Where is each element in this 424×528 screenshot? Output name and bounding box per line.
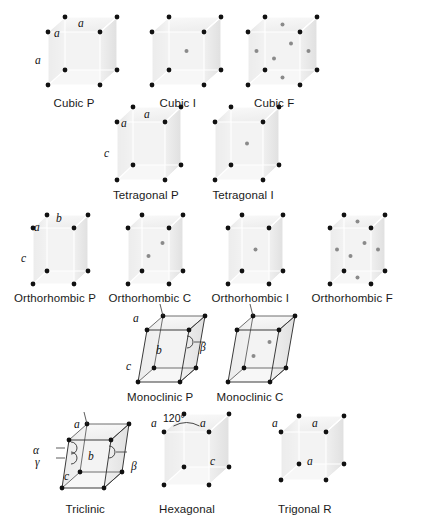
lattice-point-corner-2 (72, 282, 77, 287)
lattice-point-corner-2 (369, 282, 374, 287)
face-front (33, 228, 74, 284)
lattice-cell-cubic-f[interactable] (246, 15, 320, 88)
lattice-point-corner-7 (182, 465, 187, 470)
lattice-point-interior-0 (254, 248, 258, 252)
lattice-point-interior-1 (161, 241, 165, 245)
lattice-point-corner-2 (163, 178, 168, 183)
lattice-point-corner-1 (109, 438, 114, 443)
hexagonal-edge-label-c-vertical: c (210, 455, 215, 467)
triclinic-angle-label-gamma: γ (35, 456, 40, 468)
cubic-p-edge-label-a-top-left: a (54, 27, 60, 39)
lattice-point-corner-5 (293, 314, 298, 319)
lattice-point-corner-1 (261, 120, 266, 125)
cell-caption-tetragonal-p: Tetragonal P (113, 189, 179, 201)
lattice-point-interior-5 (376, 248, 380, 252)
tetragonal-p-edge-label-c-vertical: c (104, 147, 109, 159)
orthorhombic-p-edge-label-a-top-left: a (34, 221, 40, 233)
lattice-cell-orthorhombic-c[interactable] (126, 213, 186, 287)
cell-caption-monoclinic-c: Monoclinic C (217, 391, 284, 403)
lattice-point-corner-1 (207, 430, 212, 435)
lattice-point-corner-5 (203, 314, 208, 319)
lattice-point-corner-6 (219, 68, 224, 73)
lattice-point-corner-2 (298, 83, 303, 88)
lattice-point-corner-6 (86, 269, 91, 274)
lattice-point-corner-2 (207, 483, 212, 488)
lattice-point-interior-5 (307, 49, 311, 53)
tetragonal-p-edge-label-a-top-back: a (144, 108, 150, 120)
lattice-point-interior-3 (281, 76, 285, 80)
lattice-point-corner-3 (246, 83, 251, 88)
lattice-point-corner-1 (202, 30, 207, 35)
lattice-point-corner-5 (115, 15, 120, 20)
lattice-point-corner-5 (227, 412, 232, 417)
hexagonal-edge-label-a-right: a (200, 417, 206, 429)
triclinic-edge-label-b-front: b (88, 450, 94, 462)
lattice-point-corner-4 (297, 414, 302, 419)
trigonal-r-edge-label-a-face: a (307, 455, 313, 467)
lattice-point-interior-0 (349, 254, 353, 258)
lattice-point-corner-5 (219, 15, 224, 20)
lattice-point-corner-0 (279, 430, 284, 435)
lattice-point-interior-0 (147, 254, 151, 258)
lattice-point-corner-7 (63, 68, 68, 73)
lattice-point-corner-4 (263, 15, 268, 20)
lattice-point-corner-7 (342, 269, 347, 274)
face-front (281, 432, 326, 480)
lattice-point-interior-2 (281, 23, 285, 27)
lattice-point-interior-0 (272, 57, 276, 61)
lattice-point-corner-5 (281, 213, 286, 218)
cell-caption-tetragonal-i: Tetragonal I (213, 189, 274, 201)
lattice-point-corner-6 (194, 366, 199, 371)
lattice-point-corner-1 (369, 226, 374, 231)
lattice-point-corner-6 (284, 366, 289, 371)
lattice-point-interior-4 (255, 49, 259, 53)
lattice-point-corner-4 (140, 213, 145, 218)
lattice-point-corner-7 (240, 269, 245, 274)
face-front (164, 432, 209, 485)
lattice-cell-tetragonal-i[interactable] (213, 105, 282, 183)
lattice-point-corner-4 (240, 213, 245, 218)
lattice-point-corner-6 (120, 470, 125, 475)
lattice-point-corner-4 (131, 105, 136, 110)
lattice-point-corner-3 (126, 282, 131, 287)
lattice-point-corner-7 (152, 366, 157, 371)
hexagonal-edge-label-a-left: a (151, 417, 157, 429)
lattice-point-corner-7 (297, 462, 302, 467)
lattice-point-corner-7 (45, 269, 50, 274)
face-front (152, 32, 204, 85)
lattice-point-corner-6 (277, 163, 282, 168)
lattice-point-corner-0 (235, 328, 240, 333)
lattice-point-corner-7 (229, 163, 234, 168)
cell-caption-cubic-p: Cubic P (54, 97, 95, 109)
lattice-point-corner-0 (246, 30, 251, 35)
lattice-point-corner-0 (126, 226, 131, 231)
lattice-point-corner-4 (229, 105, 234, 110)
lattice-point-corner-7 (242, 366, 247, 371)
lattice-cell-orthorhombic-f[interactable] (328, 213, 388, 287)
lattice-point-corner-1 (163, 120, 168, 125)
lattice-point-interior-1 (268, 340, 272, 344)
lattice-point-corner-3 (31, 282, 36, 287)
lattice-point-corner-3 (162, 483, 167, 488)
lattice-point-corner-3 (136, 380, 141, 385)
lattice-cell-orthorhombic-i[interactable] (226, 213, 286, 287)
lattice-point-corner-5 (315, 15, 320, 20)
cell-caption-orthorhombic-p: Orthorhombic P (14, 292, 96, 304)
lattice-point-corner-0 (328, 226, 333, 231)
lattice-point-corner-3 (226, 380, 231, 385)
lattice-point-corner-0 (145, 328, 150, 333)
lattice-point-corner-5 (127, 422, 132, 427)
lattice-point-corner-4 (167, 15, 172, 20)
lattice-point-corner-2 (261, 178, 266, 183)
face-front (117, 122, 165, 180)
lattice-point-corner-1 (167, 226, 172, 231)
lattice-cell-cubic-i[interactable] (150, 15, 224, 88)
cubic-p-edge-label-a-top-back: a (78, 17, 84, 29)
lattice-point-corner-3 (213, 178, 218, 183)
cubic-p-edge-label-a-vertical: a (35, 54, 41, 66)
cell-caption-orthorhombic-c: Orthorhombic C (109, 292, 192, 304)
lattice-point-interior-0 (252, 354, 256, 358)
lattice-point-corner-0 (46, 30, 51, 35)
triclinic-edge-label-c-vertical: c (64, 470, 69, 482)
lattice-point-corner-6 (383, 269, 388, 274)
